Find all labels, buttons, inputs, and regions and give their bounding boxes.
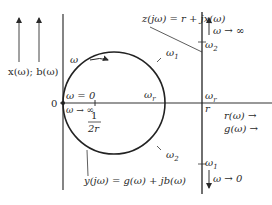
omega-zero-bottom-label: ω → 0 (213, 173, 243, 184)
r-label: r (205, 103, 211, 114)
origin-label: 0 (51, 98, 57, 109)
omega2-circle-label: ω2 (166, 149, 179, 163)
center-label-den: 2r (87, 123, 100, 134)
r-axis-label: r(ω) → (224, 110, 257, 121)
omega-inf-left-label: ω → ∞ (66, 105, 94, 115)
omega-r-circle-label: ωr (144, 89, 156, 103)
omega-r-line-label: ωr (205, 90, 217, 104)
direction-label: ω (70, 54, 78, 65)
omega2-line-label: ω2 (205, 39, 218, 53)
omega1-tick (157, 58, 161, 62)
left-axis-label: x(ω); b(ω) (8, 66, 59, 77)
y-leader (87, 150, 88, 176)
z-leader (150, 27, 202, 52)
direction-arrow (90, 59, 108, 61)
diagram-svg: x(ω); b(ω) 0 1 2r ω ω = 0 ω → ∞ ω1 ωr ω2… (0, 0, 272, 205)
omega-inf-top-label: ω → ∞ (213, 25, 244, 36)
y-label: y(jω) = g(ω) + jb(ω) (83, 175, 186, 186)
omega2-tick (157, 146, 161, 150)
omega1-line-label: ω1 (205, 157, 218, 171)
omega-zero-label: ω = 0 (66, 90, 96, 101)
z-label: z(jω) = r + jx(ω) (141, 13, 225, 24)
omega1-circle-label: ω1 (166, 47, 179, 61)
g-axis-label: g(ω) → (224, 123, 259, 134)
circle-diagram: x(ω); b(ω) 0 1 2r ω ω = 0 ω → ∞ ω1 ωr ω2… (0, 0, 272, 205)
